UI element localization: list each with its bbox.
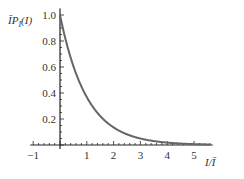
exponential-curve [60,15,210,145]
x-tick-label: −1 [27,149,39,161]
y-tick-label: 0.4 [42,87,56,99]
tick-labels: −1123450.20.40.60.81.0 [27,9,197,161]
x-tick-label: 5 [191,149,197,161]
y-tick-label: 1.0 [42,9,56,21]
y-tick-label: 0.8 [42,35,56,47]
x-tick-label: 4 [164,149,170,161]
x-tick-label: 2 [111,149,117,161]
y-tick-label: 0.6 [42,61,56,73]
curve-layer [60,15,210,145]
chart: −1123450.20.40.60.81.0 ĪPI(I) I/Ī [0,0,244,179]
y-axis-title: ĪPI(I) [7,14,32,29]
x-tick-label: 3 [138,149,144,161]
x-axis-title: I/Ī [204,156,217,168]
x-tick-label: 1 [84,149,90,161]
y-tick-label: 0.2 [42,113,56,125]
axes [30,9,213,150]
